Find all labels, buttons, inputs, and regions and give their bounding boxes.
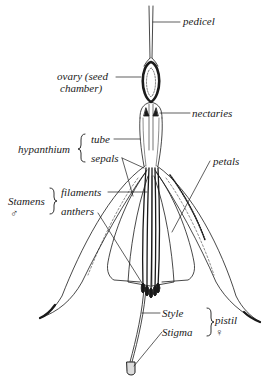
filaments-label: filaments [61,186,101,198]
right-sepal-shape [155,166,260,322]
stigma-label: Stigma [162,326,193,338]
style-shape [130,286,146,362]
leader-lines [98,22,210,366]
ovary-label: ovary (seed [57,70,108,82]
tube-label: tube [91,133,110,145]
anthers-label: anthers [61,205,94,217]
petals-leader [172,161,210,232]
fuchsia-diagram: pedicel ovary (seed chamber) nectaries h… [0,0,268,383]
petals-label: petals [213,155,239,167]
pistil-label: pistil [215,314,237,326]
nectaries-label: nectaries [192,107,232,119]
sepals-label: sepals [91,152,119,164]
ovary-shape [143,62,160,102]
style-label: Style [162,307,183,319]
stamens-brace [50,188,57,214]
sepals-leader-1 [122,158,144,168]
pedicel-label: pedicel [183,15,215,27]
stigma-shape [127,362,135,375]
male-symbol: ♂ [10,207,18,219]
braces [50,134,214,336]
stamens-label: Stamens [8,195,45,207]
pistil-brace [207,308,214,336]
ovary-label-line2: chamber) [60,82,102,94]
pedicel-shape [144,6,158,66]
hypanthium-brace [78,134,85,162]
hypanthium-label: hypanthium [18,143,70,155]
stamens-shape [143,168,160,292]
female-symbol: ♀ [215,326,223,338]
hypanthium-tube-shape [140,118,163,166]
